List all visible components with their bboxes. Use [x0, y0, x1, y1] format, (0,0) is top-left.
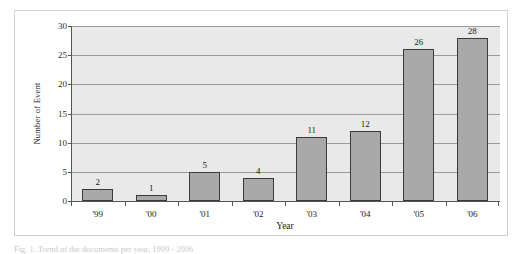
x-axis-tick-label: '05	[392, 210, 446, 219]
bar-value-label: 26	[414, 38, 423, 47]
bar[interactable]	[457, 38, 488, 201]
bar-value-label: 28	[468, 27, 477, 36]
x-axis-title: Year	[71, 220, 499, 232]
bar[interactable]	[350, 131, 381, 201]
y-axis-title: Number of Event	[31, 26, 43, 201]
x-axis-tick-label: '99	[71, 210, 125, 219]
x-axis-end-tick	[498, 202, 499, 206]
bar-slot: 26	[392, 26, 446, 201]
x-axis-tick-label: '00	[125, 210, 179, 219]
x-axis-tick-mark	[446, 202, 447, 206]
bar-slot: 11	[285, 26, 339, 201]
figure-caption: Fig. 1. Trend of the documents per year,…	[14, 244, 514, 254]
bar[interactable]	[403, 49, 434, 201]
x-axis-tick-label: '01	[178, 210, 232, 219]
x-axis-tick-mark	[392, 202, 393, 206]
bar-series: 215411122628	[71, 26, 499, 201]
bar-slot: 4	[232, 26, 286, 201]
x-axis-tick-mark	[125, 202, 126, 206]
bar-chart: Number of Event 051015202530 21541112262…	[15, 11, 509, 237]
x-axis-tick-mark	[178, 202, 179, 206]
bar[interactable]	[243, 178, 274, 201]
y-axis-tick-label: 0	[63, 197, 68, 206]
y-axis-tick-label: 10	[58, 138, 67, 147]
bar-value-label: 1	[149, 184, 154, 193]
bar-value-label: 12	[361, 120, 370, 129]
bar[interactable]	[82, 189, 113, 201]
figure-frame: Number of Event 051015202530 21541112262…	[14, 10, 508, 236]
y-axis-tick-label: 30	[58, 22, 67, 31]
bar-slot: 5	[178, 26, 232, 201]
bar-value-label: 11	[307, 126, 316, 135]
y-axis-tick-label: 20	[58, 80, 67, 89]
bar-value-label: 5	[203, 161, 208, 170]
bar-slot: 1	[125, 26, 179, 201]
bar[interactable]	[136, 195, 167, 201]
bar-slot: 2	[71, 26, 125, 201]
x-axis-tick-label: '06	[446, 210, 500, 219]
x-axis-tick-mark	[71, 202, 72, 206]
y-axis-tick-label: 25	[58, 51, 67, 60]
x-axis-tick-label: '02	[232, 210, 286, 219]
x-axis-tick-mark	[232, 202, 233, 206]
x-axis-tick-mark	[339, 202, 340, 206]
y-axis-tick-label: 15	[58, 109, 67, 118]
x-axis-tick-mark	[285, 202, 286, 206]
bar[interactable]	[189, 172, 220, 201]
bar-slot: 12	[339, 26, 393, 201]
x-axis-tick-label: '03	[285, 210, 339, 219]
y-axis-tick-label: 5	[63, 167, 68, 176]
x-axis-tick-label: '04	[339, 210, 393, 219]
bar-value-label: 4	[256, 167, 261, 176]
bar-value-label: 2	[96, 178, 101, 187]
bar[interactable]	[296, 137, 327, 201]
bar-slot: 28	[446, 26, 500, 201]
